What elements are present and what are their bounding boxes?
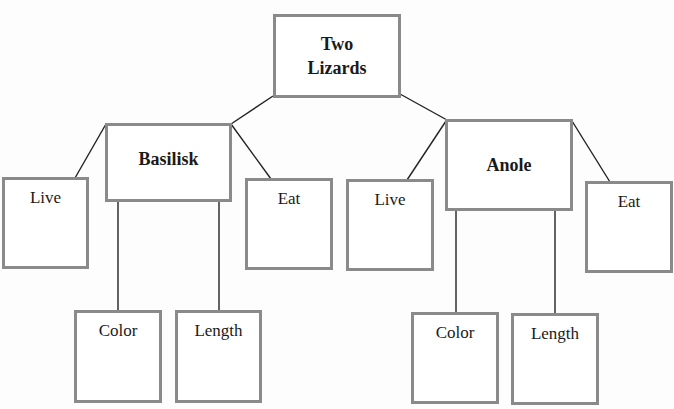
node-basilisk-live: Live (2, 177, 89, 269)
node-label: Color (436, 323, 475, 342)
node-basilisk-eat: Eat (245, 178, 333, 270)
node-label: Basilisk (138, 147, 198, 171)
node-basilisk-color: Color (74, 310, 162, 403)
node-label: Length (194, 321, 242, 340)
node-anole-live: Live (346, 179, 434, 271)
node-label: Eat (618, 192, 641, 211)
edge-anole-live (407, 121, 446, 180)
edge-root-anole (400, 94, 447, 120)
node-label: Anole (487, 153, 532, 177)
edge-basilisk-eat (231, 124, 271, 179)
node-label: Length (531, 324, 579, 343)
node-anole-eat: Eat (585, 181, 673, 273)
edge-basilisk-live (75, 124, 106, 178)
node-label-line-1: Two (307, 32, 366, 56)
node-basilisk-length: Length (175, 310, 262, 403)
tree-diagram: Two Lizards Basilisk Live Eat Color Leng… (0, 0, 674, 409)
node-label: Live (374, 190, 405, 209)
node-anole-color: Color (411, 312, 499, 404)
node-label-line-2: Lizards (307, 56, 366, 80)
node-root-two-lizards: Two Lizards (273, 14, 401, 98)
node-label: Live (30, 188, 61, 207)
edge-anole-eat (572, 121, 610, 182)
edge-root-basilisk (231, 96, 273, 124)
node-label: Color (99, 321, 138, 340)
node-basilisk: Basilisk (105, 123, 232, 202)
node-label: Eat (278, 189, 301, 208)
node-anole-length: Length (511, 313, 599, 405)
node-anole: Anole (445, 119, 573, 211)
